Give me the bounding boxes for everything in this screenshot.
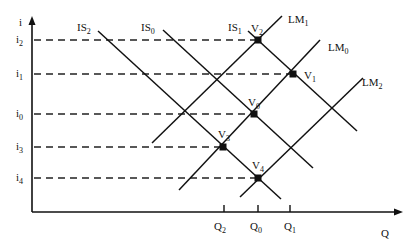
label-i2: i2: [16, 33, 23, 48]
label-i3: i3: [16, 140, 23, 155]
label-v1: V1: [304, 69, 316, 84]
label-lm1: LM1: [288, 13, 309, 28]
label-is0: IS0: [141, 21, 155, 36]
y-axis-arrow-icon: [29, 16, 36, 25]
y-axis-label: i: [19, 16, 22, 28]
x-axis-arrow-icon: [394, 209, 403, 216]
label-v4: V4: [252, 159, 264, 174]
point-v2: [255, 37, 262, 44]
x-axis-label: Q: [381, 227, 389, 239]
label-is1: IS1: [228, 21, 242, 36]
label-v0: V0: [248, 96, 260, 111]
label-q0: Q0: [250, 220, 262, 235]
label-lm0: LM0: [328, 41, 349, 56]
point-v0: [251, 111, 258, 118]
label-q1: Q1: [284, 220, 296, 235]
label-is2: IS2: [77, 21, 91, 36]
label-i1: i1: [16, 67, 23, 82]
point-v1: [290, 71, 297, 78]
point-v4: [255, 175, 262, 182]
label-i0: i0: [16, 107, 23, 122]
label-i4: i4: [16, 171, 23, 186]
lm0-curve: [179, 40, 320, 190]
label-q2: Q2: [214, 220, 226, 235]
label-lm2: LM2: [362, 76, 383, 91]
is-lm-diagram: i Q i2 i1 i0 i3 i4 Q2 Q0 Q1 IS2 IS0 IS1 …: [0, 0, 413, 245]
label-v3: V3: [218, 128, 230, 143]
point-v3: [220, 144, 227, 151]
